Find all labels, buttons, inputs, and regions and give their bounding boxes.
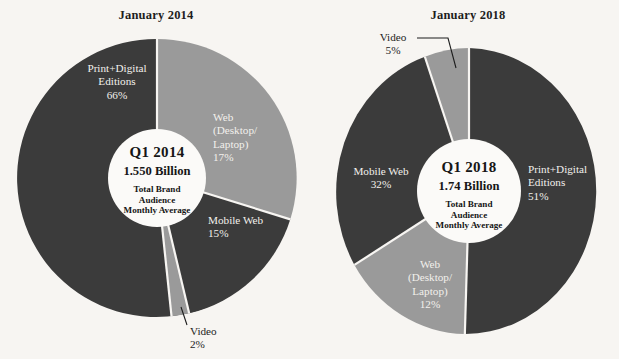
center-left-subtitle: Total Brand Audience Monthly Average — [98, 184, 216, 216]
label-left-mobile-web-percent: 15% — [208, 227, 292, 240]
label-right-video-percent: 5% — [370, 44, 416, 57]
chart-title-left: January 2014 — [96, 8, 216, 23]
label-right-mobile-web: Mobile Web 32% — [342, 165, 420, 192]
label-left-print-digital-percent: 66% — [42, 89, 192, 102]
center-left-subtitle-line1: Total Brand — [98, 184, 216, 195]
label-right-print-digital-percent: 51% — [528, 190, 618, 203]
center-right-subtitle-line3: Monthly Average — [410, 220, 528, 231]
label-right-mobile-web-line1: Mobile Web — [342, 165, 420, 178]
center-right-subtitle: Total Brand Audience Monthly Average — [410, 199, 528, 231]
label-right-web: Web (Desktop/ Laptop) 12% — [390, 258, 470, 312]
center-right-subtitle-line1: Total Brand — [410, 199, 528, 210]
chart-title-right: January 2018 — [408, 8, 528, 23]
label-left-web-line1: Web — [213, 111, 287, 124]
label-left-web-percent: 17% — [213, 151, 287, 164]
label-left-mobile-web-line1: Mobile Web — [208, 214, 292, 227]
label-left-video-percent: 2% — [190, 338, 250, 351]
label-left-print-digital: Print+Digital Editions 66% — [42, 62, 192, 102]
center-left-quarter: Q1 2014 — [98, 144, 216, 161]
label-left-video: Video 2% — [190, 325, 250, 352]
label-left-web: Web (Desktop/ Laptop) 17% — [213, 111, 287, 165]
center-right-total: 1.74 Billion — [410, 179, 528, 194]
label-right-mobile-web-percent: 32% — [342, 178, 420, 191]
label-left-web-line2: (Desktop/ — [213, 124, 287, 137]
label-left-print-digital-line1: Print+Digital — [42, 62, 192, 75]
center-left-subtitle-line3: Monthly Average — [98, 205, 216, 216]
center-left-subtitle-line2: Audience — [98, 195, 216, 206]
label-left-mobile-web: Mobile Web 15% — [208, 214, 292, 241]
label-right-print-digital: Print+Digital Editions 51% — [528, 163, 618, 203]
label-right-web-line3: Laptop) — [390, 285, 470, 298]
label-left-web-line3: Laptop) — [213, 138, 287, 151]
label-right-video-line1: Video — [370, 31, 416, 44]
center-right-quarter: Q1 2018 — [410, 159, 528, 176]
label-left-video-line1: Video — [190, 325, 250, 338]
label-right-print-digital-line1: Print+Digital — [528, 163, 618, 176]
center-right-subtitle-line2: Audience — [410, 210, 528, 221]
center-summary-right: Q1 2018 1.74 Billion Total Brand Audienc… — [410, 159, 528, 231]
center-left-total: 1.550 Billion — [98, 164, 216, 179]
label-left-print-digital-line2: Editions — [42, 75, 192, 88]
label-right-web-line1: Web — [390, 258, 470, 271]
center-summary-left: Q1 2014 1.550 Billion Total Brand Audien… — [98, 144, 216, 216]
label-right-print-digital-line2: Editions — [528, 176, 618, 189]
label-right-web-line2: (Desktop/ — [390, 271, 470, 284]
label-right-video: Video 5% — [370, 31, 416, 58]
label-right-web-percent: 12% — [390, 298, 470, 311]
